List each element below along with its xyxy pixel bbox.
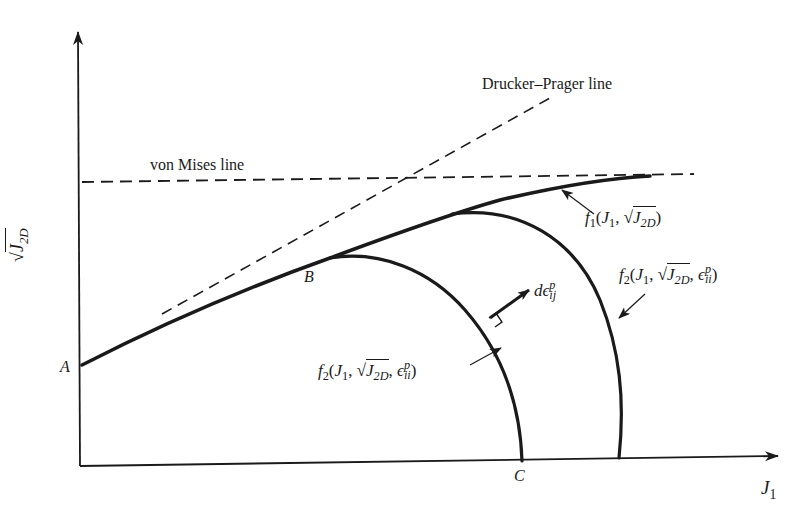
f2i-comma2: , xyxy=(389,361,393,380)
f2i-sqrt: √ xyxy=(357,361,366,380)
f2-outer-label: f2(J1, √J2D, ϵpii) xyxy=(619,264,717,286)
f1-label: f1(J1, √J2D) xyxy=(585,209,661,230)
y-label-sub: 2D xyxy=(16,228,31,244)
f2o-eps-sub: ii xyxy=(705,274,712,284)
f1-j2: J xyxy=(633,208,641,227)
f2o-j1: J xyxy=(636,265,644,284)
yield-surface-diagram xyxy=(0,0,800,512)
f2o-sqrt: √ xyxy=(658,265,667,284)
f2i-j2-sub: 2D xyxy=(374,369,389,383)
f2-inner-label: f2(J1, √J2D, ϵpii) xyxy=(318,360,416,382)
f2i-eps: ϵ xyxy=(397,361,404,380)
f1-comma: , xyxy=(615,208,619,227)
y-label-main: J xyxy=(7,244,27,252)
f2o-j2: J xyxy=(667,265,675,284)
f2i-j1: J xyxy=(335,361,343,380)
point-b-label: B xyxy=(304,269,314,285)
point-c-label: C xyxy=(514,468,525,484)
von-mises-label: von Mises line xyxy=(150,157,244,173)
d-symbol: d xyxy=(534,281,543,300)
f2i-eps-sub: ii xyxy=(404,370,411,380)
y-axis xyxy=(78,32,80,466)
drucker-prager-label: Drucker–Prager line xyxy=(482,76,612,92)
f2i-j2: J xyxy=(366,361,374,380)
f2o-j2-sub: 2D xyxy=(675,273,690,287)
x-axis-label: J1 xyxy=(761,478,776,501)
point-a-label: A xyxy=(60,359,70,375)
f2i-comma: , xyxy=(348,361,352,380)
f1-close: ) xyxy=(656,208,662,227)
y-axis-label: √J2D xyxy=(8,228,30,262)
drucker-prager-line xyxy=(162,98,550,314)
plastic-strain-increment-label: dϵpij xyxy=(534,280,556,301)
f2i-close: ) xyxy=(411,361,417,380)
f1-failure-envelope xyxy=(82,176,650,365)
f2o-comma2: , xyxy=(690,265,694,284)
f1-sqrt: √ xyxy=(624,208,633,227)
x-label-sub: 1 xyxy=(769,487,776,502)
f2o-close: ) xyxy=(712,265,718,284)
f2-outer-leader-arrow xyxy=(619,294,645,318)
f1-j1: J xyxy=(602,208,610,227)
f1-j2-sub: 2D xyxy=(641,216,656,230)
x-axis xyxy=(80,456,778,466)
f2-inner-cap xyxy=(330,256,522,461)
eps-sub: ij xyxy=(549,290,556,300)
sqrt-symbol: √ xyxy=(7,252,27,262)
f2o-comma: , xyxy=(649,265,653,284)
f2-outer-cap xyxy=(452,213,621,458)
f2o-eps: ϵ xyxy=(698,265,705,284)
